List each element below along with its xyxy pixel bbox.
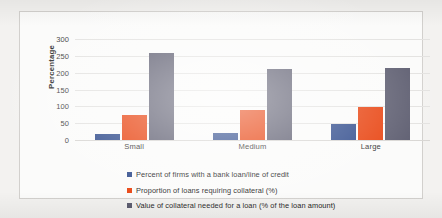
legend-swatch-blue xyxy=(127,172,132,177)
bar-medium-series-2[interactable] xyxy=(240,110,265,140)
legend-label-bank-loan: Percent of firms with a bank loan/line o… xyxy=(136,170,289,179)
gridline-300 xyxy=(75,39,430,40)
y-axis-title: Percentage xyxy=(47,45,56,89)
legend-label-collateral-proportion: Proportion of loans requiring collateral… xyxy=(136,186,278,195)
y-tick-label-150: 150 xyxy=(56,85,69,94)
bar-medium-series-3[interactable] xyxy=(267,69,292,140)
gridline-150 xyxy=(75,90,430,91)
bar-large-series-1[interactable] xyxy=(331,124,356,140)
legend-label-collateral-value: Value of collateral needed for a loan (%… xyxy=(136,201,335,210)
y-tick-label-300: 300 xyxy=(56,35,69,44)
gridline-200 xyxy=(75,73,430,74)
bar-medium-series-1[interactable] xyxy=(213,133,238,140)
y-tick-label-0: 0 xyxy=(65,136,69,145)
y-tick-label-50: 50 xyxy=(60,119,69,128)
chart-figure: Percentage 050100150200250300SmallMedium… xyxy=(0,0,442,218)
legend-swatch-gray xyxy=(127,203,132,208)
x-axis-line xyxy=(75,140,430,141)
y-tick-label-200: 200 xyxy=(56,68,69,77)
plot-area: 050100150200250300SmallMediumLarge xyxy=(75,39,430,140)
legend-item-collateral-value[interactable]: Value of collateral needed for a loan (%… xyxy=(127,201,335,210)
chart-legend: Percent of firms with a bank loan/line o… xyxy=(127,170,335,210)
y-tick-label-100: 100 xyxy=(56,102,69,111)
chart-frame: Percentage 050100150200250300SmallMedium… xyxy=(19,11,423,199)
legend-item-bank-loan[interactable]: Percent of firms with a bank loan/line o… xyxy=(127,170,335,179)
bar-small-series-1[interactable] xyxy=(95,134,120,140)
bar-small-series-3[interactable] xyxy=(149,53,174,140)
x-category-label-medium: Medium xyxy=(208,142,298,151)
bar-small-series-2[interactable] xyxy=(122,115,147,140)
legend-item-collateral-proportion[interactable]: Proportion of loans requiring collateral… xyxy=(127,186,335,195)
bar-large-series-3[interactable] xyxy=(385,68,410,140)
gridline-250 xyxy=(75,56,430,57)
legend-swatch-orange xyxy=(127,188,132,193)
y-tick-label-250: 250 xyxy=(56,51,69,60)
bar-large-series-2[interactable] xyxy=(358,107,383,140)
x-category-label-small: Small xyxy=(89,142,179,151)
x-category-label-large: Large xyxy=(326,142,416,151)
